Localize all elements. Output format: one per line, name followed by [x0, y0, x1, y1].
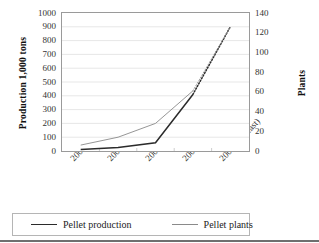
- legend-line-swatch: [172, 224, 198, 225]
- left-tick-800: 800: [30, 36, 56, 45]
- right-tick-80: 80: [255, 68, 281, 77]
- legend-item-2[interactable]: Pellet plants: [172, 219, 253, 230]
- right-tick-120: 120: [255, 28, 281, 37]
- right-axis-title: Plants: [297, 43, 307, 123]
- x-tick-marks: [99, 148, 211, 151]
- left-tick-200: 200: [30, 119, 56, 128]
- left-tick-600: 600: [30, 64, 56, 73]
- right-tick-0: 0: [255, 147, 281, 156]
- series-forecast-line-2: [193, 27, 230, 91]
- chart-legend: Pellet productionPellet plants: [12, 213, 250, 236]
- left-tick-900: 900: [30, 22, 56, 31]
- bottom-divider: [0, 240, 319, 242]
- series-layer: [81, 27, 231, 150]
- left-tick-300: 300: [30, 105, 56, 114]
- pellet-production-line-chart: Production 1,000 tons Plants 10009008007…: [0, 0, 319, 243]
- right-tick-60: 60: [255, 87, 281, 96]
- left-tick-400: 400: [30, 91, 56, 100]
- right-tick-40: 40: [255, 107, 281, 116]
- left-tick-0: 0: [30, 147, 56, 156]
- left-tick-700: 700: [30, 50, 56, 59]
- plot-svg: [62, 13, 249, 151]
- right-tick-20: 20: [255, 127, 281, 136]
- right-tick-140: 140: [255, 9, 281, 18]
- right-tick-100: 100: [255, 48, 281, 57]
- left-tick-1000: 1000: [30, 9, 56, 18]
- legend-line-swatch: [31, 224, 57, 225]
- legend-item-1[interactable]: Pellet production: [31, 219, 132, 230]
- left-axis-title: Production 1,000 tons: [18, 13, 28, 153]
- legend-label: Pellet plants: [204, 219, 253, 230]
- series-forecast-line-1: [193, 27, 230, 95]
- legend-label: Pellet production: [63, 219, 132, 230]
- plot-area: [61, 12, 250, 152]
- left-tick-100: 100: [30, 133, 56, 142]
- left-tick-500: 500: [30, 78, 56, 87]
